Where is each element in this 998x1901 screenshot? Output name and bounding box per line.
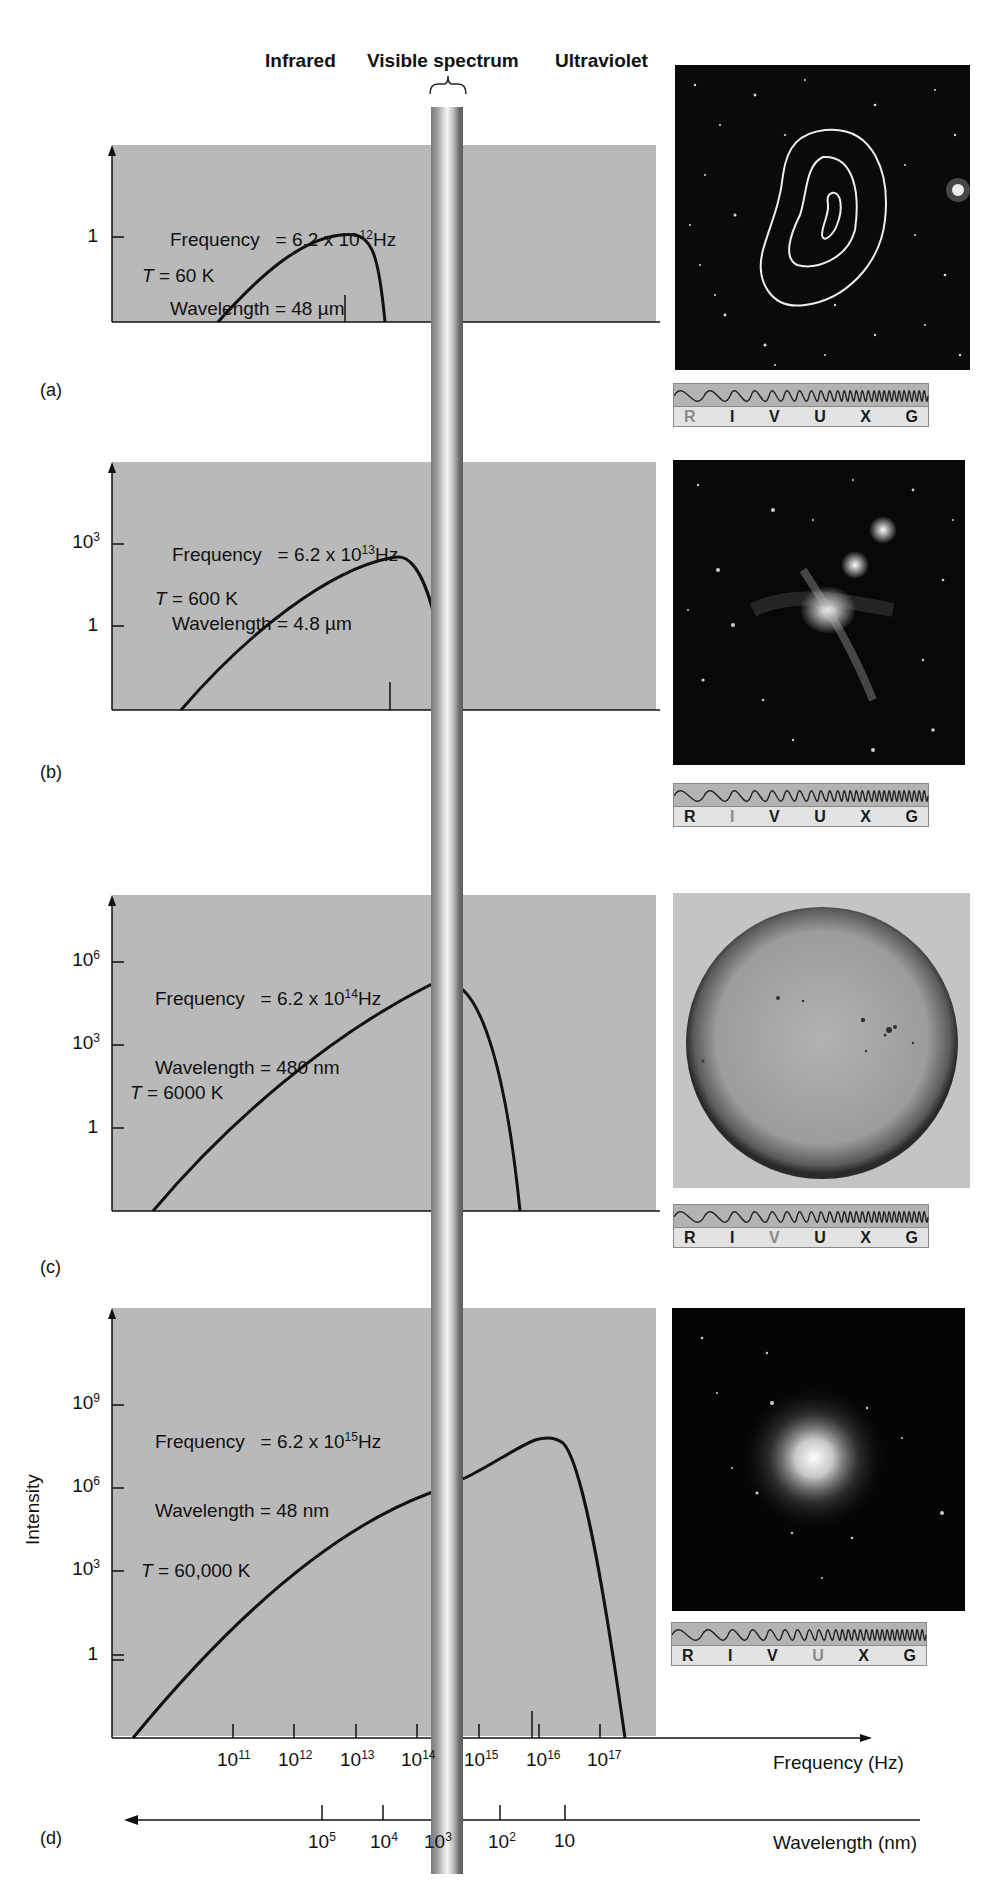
- frequency-axis-title: Frequency (Hz): [773, 1752, 904, 1774]
- panel-d-temperature: T = 60,000 K: [141, 1560, 250, 1582]
- rivuxg-indicator-c: RIVUXG: [673, 1204, 929, 1250]
- freq-tick-1e16: 1016: [526, 1748, 561, 1771]
- panel-c-letter: (c): [40, 1257, 61, 1278]
- ytick-b-1e3: 103: [60, 530, 100, 553]
- wave-tick-1e3: 103: [424, 1830, 452, 1853]
- infrared-cloud-image: [675, 65, 970, 370]
- panel-c-info: Frequency = 6.2 x 1014Hz Wavelength = 48…: [155, 937, 381, 1102]
- wave-tick-1e4: 104: [370, 1830, 398, 1853]
- rivuxg-indicator-b: RIVUXG: [673, 783, 929, 829]
- wave-icon: [673, 783, 929, 807]
- y-axis-title: Intensity: [22, 1474, 44, 1545]
- nebula-image: [673, 460, 965, 765]
- sun-disk-image: [673, 893, 970, 1188]
- ytick-c-1e6: 106: [60, 948, 100, 971]
- panel-d-letter: (d): [40, 1828, 62, 1849]
- ytick-b-1: 1: [58, 614, 98, 636]
- freq-tick-1e17: 1017: [587, 1748, 622, 1771]
- rivuxg-labels: RIVUXG: [673, 807, 929, 827]
- freq-tick-1e12: 1012: [278, 1748, 313, 1771]
- rivuxg-labels: RIVUXG: [673, 407, 929, 427]
- panel-b-letter: (b): [40, 762, 62, 783]
- ytick-d-1e9: 109: [60, 1391, 100, 1414]
- sun-disk: [673, 893, 970, 1188]
- ytick-d-1: 1: [58, 1643, 98, 1665]
- globular-cluster-image: [672, 1308, 965, 1611]
- panel-a-letter: (a): [40, 380, 62, 401]
- visible-band-bar: [431, 107, 463, 1874]
- wave-icon: [673, 1204, 929, 1228]
- rivuxg-labels: RIVUXG: [671, 1646, 927, 1666]
- ytick-c-1e3: 103: [60, 1031, 100, 1054]
- panel-a-temperature: T = 60 K: [142, 265, 214, 287]
- rivuxg-indicator-a: RIVUXG: [673, 383, 929, 429]
- cluster-stars: [672, 1308, 965, 1611]
- nebula-stars: [673, 460, 965, 765]
- panel-b-info: Frequency = 6.2 x 1013Hz Wavelength = 4.…: [172, 493, 398, 658]
- wave-icon: [673, 383, 929, 407]
- rivuxg-indicator-d: RIVUXG: [671, 1622, 927, 1668]
- contour-lines: [675, 65, 970, 370]
- freq-tick-1e15: 1015: [464, 1748, 499, 1771]
- wave-tick-1e2: 102: [488, 1830, 516, 1853]
- freq-tick-1e11: 1011: [217, 1748, 251, 1771]
- wave-icon: [671, 1622, 927, 1646]
- rivuxg-labels: RIVUXG: [673, 1228, 929, 1248]
- freq-tick-1e13: 1013: [340, 1748, 375, 1771]
- panel-a-info: Frequency = 6.2 x 1012Hz Wavelength = 48…: [170, 178, 396, 343]
- wave-tick-10: 10: [554, 1830, 575, 1852]
- panel-d-info: Frequency = 6.2 x 1015Hz Wavelength = 48…: [155, 1380, 381, 1545]
- wavelength-axis-title: Wavelength (nm): [773, 1832, 917, 1854]
- wave-tick-1e5: 105: [308, 1830, 336, 1853]
- ytick-d-1e6: 106: [60, 1474, 100, 1497]
- panel-b-temperature: T = 600 K: [155, 588, 238, 610]
- ytick-d-1e3: 103: [60, 1557, 100, 1580]
- panel-c-temperature: T = 6000 K: [130, 1082, 223, 1104]
- freq-tick-1e14: 1014: [401, 1748, 436, 1771]
- ytick-a-1: 1: [58, 225, 98, 247]
- ytick-c-1: 1: [58, 1116, 98, 1138]
